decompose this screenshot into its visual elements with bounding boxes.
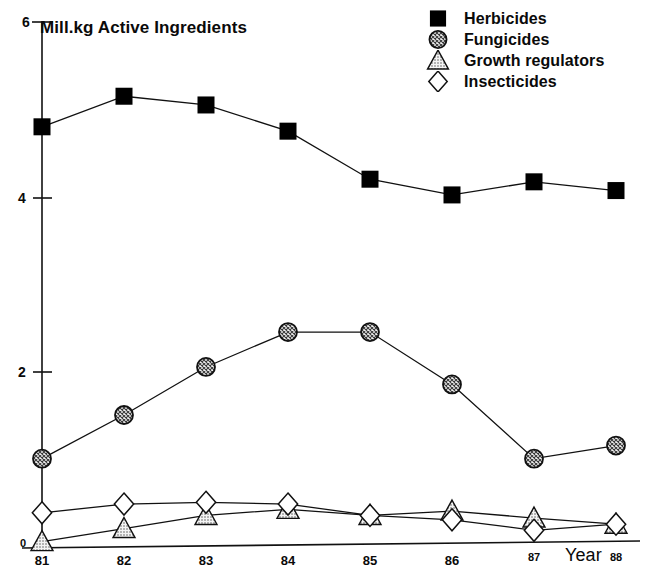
chart-legend: HerbicidesFungicidesGrowth regulatorsIns…: [425, 8, 640, 92]
filled-square-icon: [425, 8, 451, 29]
x-tick-label-82: 82: [117, 553, 131, 568]
pesticide-usage-line-chart: Mill.kg Active Ingredients Year 6 4 2 0 …: [0, 0, 647, 574]
data-point: [196, 491, 215, 513]
data-point: [115, 406, 133, 424]
data-point: [280, 123, 297, 140]
data-point: [608, 182, 625, 199]
series-fungicides: [33, 323, 625, 468]
data-point: [116, 88, 133, 105]
axis-lines: [22, 22, 640, 548]
legend-label: Growth regulators: [451, 52, 604, 70]
legend-label: Herbicides: [451, 10, 547, 28]
data-point: [32, 502, 51, 524]
data-point: [33, 450, 51, 468]
legend-label: Insecticides: [451, 73, 557, 91]
open-diamond-icon: [425, 71, 451, 92]
legend-item-insecticides[interactable]: Insecticides: [425, 71, 640, 92]
legend-label: Fungicides: [451, 31, 549, 49]
data-point: [361, 323, 379, 341]
x-tick-label-87: 87: [528, 551, 540, 563]
x-tick-label-88: 88: [610, 551, 622, 563]
series-line: [42, 332, 616, 459]
data-point: [525, 450, 543, 468]
stippled-triangle-icon: [425, 50, 451, 71]
x-tick-label-83: 83: [199, 553, 213, 568]
data-series-layer: [31, 88, 627, 551]
y-tick-label-2: 2: [18, 364, 26, 380]
legend-item-fungicides[interactable]: Fungicides: [425, 29, 640, 50]
data-point: [526, 173, 543, 190]
data-point: [114, 493, 133, 515]
y-tick-label-0: 0: [20, 537, 26, 549]
data-point: [444, 186, 461, 203]
y-tick-label-6: 6: [22, 14, 30, 30]
hatched-circle-icon: [425, 29, 451, 50]
x-tick-label-86: 86: [445, 553, 459, 568]
series-herbicides: [34, 88, 625, 204]
legend-item-herbicides[interactable]: Herbicides: [425, 8, 640, 29]
data-point: [279, 323, 297, 341]
x-tick-label-81: 81: [35, 553, 49, 568]
data-point: [34, 118, 51, 135]
x-tick-label-85: 85: [363, 553, 377, 568]
data-point: [197, 358, 215, 376]
y-tick-label-4: 4: [18, 190, 26, 206]
data-point: [198, 96, 215, 113]
x-tick-label-84: 84: [281, 553, 295, 568]
legend-item-growth-regulators[interactable]: Growth regulators: [425, 50, 640, 71]
x-axis-title: Year: [565, 545, 602, 566]
data-point: [607, 437, 625, 455]
y-axis-title: Mill.kg Active Ingredients: [40, 18, 247, 38]
data-point: [362, 171, 379, 188]
data-point: [443, 375, 461, 393]
